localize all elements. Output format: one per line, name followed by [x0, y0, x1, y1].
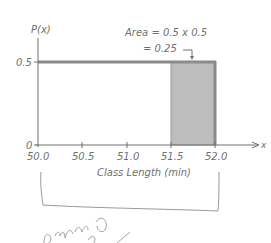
y-tick-label-05: 0.5	[16, 57, 32, 68]
x-tick-label-510: 51.0	[117, 151, 139, 162]
x-tick-label-515: 51.5	[161, 151, 183, 162]
x-axis-title: Class Length (min)	[97, 167, 191, 178]
chart-labels: P(x) 0.5 0 50.0 50.5 51.0 51.5 52.0 x Cl…	[0, 0, 271, 243]
annotation-line2: = 0.25	[143, 43, 177, 54]
y-tick-label-0: 0	[26, 140, 32, 151]
x-tick-label-505: 50.5	[72, 151, 94, 162]
x-axis-end-label: x	[260, 140, 267, 150]
x-tick-label-520: 52.0	[205, 151, 227, 162]
x-tick-label-500: 50.0	[27, 151, 49, 162]
annotation-line1: Area = 0.5 x 0.5	[124, 27, 207, 38]
y-axis-label: P(x)	[31, 24, 51, 35]
